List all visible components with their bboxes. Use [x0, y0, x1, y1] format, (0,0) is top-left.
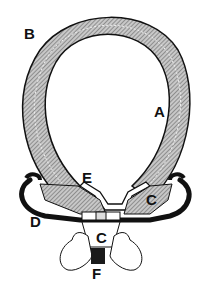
label-e: E	[82, 170, 92, 185]
label-b: B	[24, 26, 35, 41]
wing-nut-left	[60, 233, 92, 271]
label-f: F	[92, 266, 101, 281]
label-c-bottom: C	[96, 230, 107, 245]
label-d: D	[30, 214, 41, 229]
label-c-right: C	[146, 192, 157, 207]
valve-stem-top	[96, 212, 106, 220]
label-a: A	[154, 104, 165, 119]
wing-nut-right	[110, 233, 142, 271]
valve-stem-f	[91, 248, 105, 264]
